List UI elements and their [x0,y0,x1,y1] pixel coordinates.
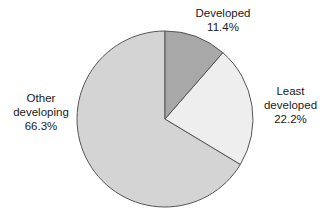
pie-label-other-developing-name-line1: Other [2,91,80,105]
pie-label-other-developing-value: 66.3% [2,119,80,133]
pie-slices [77,31,253,207]
pie-label-developed-value: 11.4% [178,20,268,34]
pie-label-developed-name: Developed [178,6,268,20]
pie-chart-figure: Developed 11.4% Least developed 22.2% Ot… [0,0,329,224]
pie-label-other-developing: Other developing 66.3% [2,91,80,133]
pie-label-least-developed: Least developed 22.2% [252,84,329,126]
pie-label-least-developed-name-line1: Least [252,84,329,98]
pie-label-least-developed-name-line2: developed [252,98,329,112]
pie-label-least-developed-value: 22.2% [252,112,329,126]
pie-label-other-developing-name-line2: developing [2,105,80,119]
pie-label-developed: Developed 11.4% [178,6,268,34]
